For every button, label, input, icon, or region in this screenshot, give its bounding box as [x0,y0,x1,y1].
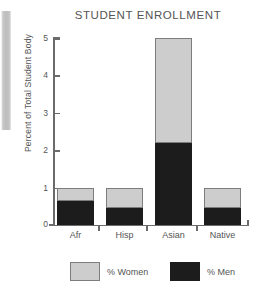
y-tick-3 [55,113,60,115]
y-tick-5 [55,38,60,40]
y-tick-4 [55,75,60,77]
x-axis-label-asian: Asian [155,230,192,240]
chart-title: STUDENT ENROLLMENT [40,9,256,21]
legend-item-men[interactable]: % Men [170,262,235,281]
x-tick-2 [196,225,198,231]
x-axis-label-afr: Afr [57,230,94,240]
y-tick-label-3: 3 [32,108,48,118]
bar-segment-men-hisp[interactable] [106,208,143,225]
y-tick-label-2: 2 [32,145,48,155]
bar-group-native[interactable] [204,188,241,225]
y-tick-label-5: 5 [32,33,48,43]
scan-artifact-strip [1,11,11,130]
bar-segment-men-native[interactable] [204,208,241,225]
bar-segment-women-asian[interactable] [155,38,192,143]
legend-label-men: % Men [207,267,235,277]
bar-segment-men-afr[interactable] [57,201,94,225]
bar-group-afr[interactable] [57,188,94,225]
legend-item-women[interactable]: % Women [70,262,148,281]
y-tick-label-0: 0 [32,219,48,229]
y-tick-0 [49,224,55,226]
bar-segment-women-hisp[interactable] [106,188,143,209]
legend-swatch-men-icon [170,262,200,281]
x-axis-right-cap [247,220,249,226]
bar-segment-men-asian[interactable] [155,143,192,225]
legend-label-women: % Women [107,267,148,277]
plot-area: 5 4 3 2 1 0 Afr Hisp Asian Native [54,38,246,225]
chart-legend: % Women % Men [54,262,254,292]
bar-group-hisp[interactable] [106,188,143,225]
x-axis-label-hisp: Hisp [106,230,143,240]
x-axis-label-native: Native [204,230,241,240]
y-axis-line [53,37,55,226]
bar-group-asian[interactable] [155,38,192,225]
bar-segment-women-afr[interactable] [57,188,94,201]
y-tick-2 [55,150,60,152]
legend-swatch-women-icon [70,262,100,281]
x-tick-0 [98,225,100,231]
y-tick-label-4: 4 [32,70,48,80]
x-tick-1 [146,225,148,231]
bar-segment-women-native[interactable] [204,188,241,209]
y-tick-label-1: 1 [32,183,48,193]
